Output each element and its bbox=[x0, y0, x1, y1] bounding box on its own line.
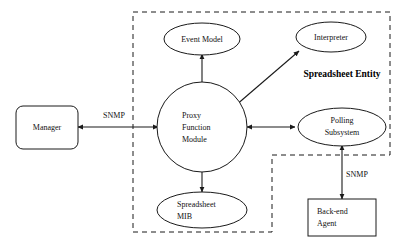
polling-subsystem-ellipse[interactable] bbox=[298, 108, 386, 146]
polling-label-line-1: Polling bbox=[330, 116, 353, 125]
back-end-agent-label-line-2: Agent bbox=[317, 219, 337, 228]
edge-label-snmp-right: SNMP bbox=[346, 170, 368, 179]
back-end-agent-label-line-1: Back-end bbox=[317, 207, 348, 216]
edge-proxy-interpreter bbox=[235, 51, 299, 106]
spreadsheet-mib-label-line-2: MIB bbox=[177, 212, 192, 221]
node-event-model[interactable]: Event Model bbox=[164, 23, 240, 55]
spreadsheet-mib-label-line-1: Spreadsheet bbox=[177, 200, 216, 209]
architecture-diagram: Spreadsheet Entity SNMP SNMP Manager Eve… bbox=[0, 0, 408, 248]
node-manager[interactable]: Manager bbox=[16, 106, 78, 149]
proxy-label-line-3: Module bbox=[182, 135, 207, 144]
spreadsheet-mib-ellipse[interactable] bbox=[157, 192, 247, 228]
node-interpreter[interactable]: Interpreter bbox=[296, 22, 366, 52]
diagram-canvas-container: Spreadsheet Entity SNMP SNMP Manager Eve… bbox=[0, 0, 408, 248]
back-end-agent-box[interactable] bbox=[308, 199, 376, 236]
spreadsheet-entity-label: Spreadsheet Entity bbox=[303, 69, 380, 79]
event-model-label: Event Model bbox=[181, 35, 223, 44]
polling-label-line-2: Subsystem bbox=[325, 128, 360, 137]
proxy-label-line-2: Function bbox=[182, 123, 210, 132]
node-proxy-function-module[interactable]: Proxy Function Module bbox=[157, 82, 247, 172]
node-back-end-agent[interactable]: Back-end Agent bbox=[308, 199, 376, 236]
node-spreadsheet-mib[interactable]: Spreadsheet MIB bbox=[157, 192, 247, 228]
node-polling-subsystem[interactable]: Polling Subsystem bbox=[298, 108, 386, 146]
interpreter-label: Interpreter bbox=[314, 33, 348, 42]
manager-label: Manager bbox=[33, 123, 62, 132]
proxy-label-line-1: Proxy bbox=[182, 111, 201, 120]
edge-label-snmp-left: SNMP bbox=[103, 111, 125, 120]
